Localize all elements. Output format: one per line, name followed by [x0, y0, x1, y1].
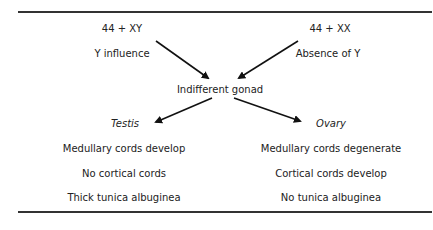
arrow-gonad-to-ovary [234, 98, 300, 121]
arrow-xy-to-gonad [156, 41, 208, 78]
arrows-layer [0, 0, 433, 230]
arrow-gonad-to-testis [156, 98, 212, 122]
arrow-xx-to-gonad [239, 41, 298, 78]
bottom-rule [18, 211, 432, 213]
